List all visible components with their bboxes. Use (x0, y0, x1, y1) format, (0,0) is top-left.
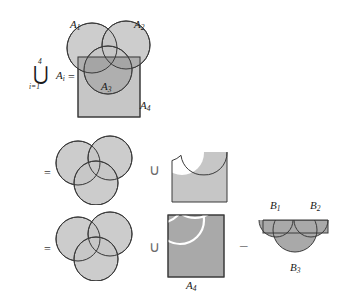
label-a4: A4 (140, 100, 150, 112)
label-b1: B1 (270, 200, 280, 212)
row3-square-a4 (168, 215, 224, 277)
figure-canvas: 4 ⋃ i=1 Ai = A1 A2 A3 A4 (0, 0, 340, 304)
row3-square-label-letter: A (186, 279, 193, 291)
row3-square-label: A4 (186, 280, 196, 292)
label-b3: B3 (290, 262, 300, 274)
label-a1-letter: A (70, 18, 77, 30)
label-b2-letter: B (310, 199, 317, 211)
row1-diagram (60, 10, 200, 140)
label-a4-letter: A (140, 99, 147, 111)
row3-equals: = (44, 243, 51, 255)
union-symbol: ⋃ (33, 64, 49, 83)
row2-union-operator: ∪ (149, 163, 160, 178)
label-b3-letter: B (290, 261, 297, 273)
label-a2-subscript: 2 (141, 23, 145, 32)
label-b1-letter: B (270, 199, 277, 211)
label-a2: A2 (134, 19, 144, 31)
label-a2-letter: A (134, 18, 141, 30)
big-union-operator: 4 ⋃ i=1 (28, 57, 54, 93)
label-a3-subscript: 3 (108, 85, 112, 94)
row3-union-operator: ∪ (149, 240, 160, 255)
label-b2-subscript: 2 (317, 204, 321, 213)
label-b2: B2 (310, 200, 320, 212)
label-a3-letter: A (101, 80, 108, 92)
row2-equals: = (44, 167, 51, 179)
label-a3: A3 (101, 81, 111, 93)
row2-circles-diagram (52, 135, 162, 205)
row3-square-label-subscript: 4 (193, 284, 197, 293)
label-b3-subscript: 3 (297, 266, 301, 275)
row3-square-with-arcs (165, 211, 231, 283)
label-a4-subscript: 4 (147, 104, 151, 113)
label-a1-subscript: 1 (77, 23, 81, 32)
label-b1-subscript: 1 (277, 204, 281, 213)
union-lower-index: i=1 (29, 82, 40, 91)
row2-square-minus-circles (168, 143, 238, 209)
label-a1: A1 (70, 19, 80, 31)
row3-minus-operator: – (240, 238, 248, 253)
row3-circles-diagram (52, 211, 162, 281)
